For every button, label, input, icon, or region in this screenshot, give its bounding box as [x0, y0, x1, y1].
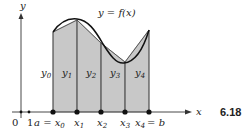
trapezoid-rule-figure: y x 0 1 y = f(x) y0 y1 y2 y3 y4 a = x0 x… [0, 0, 249, 139]
unit-dot [28, 111, 31, 114]
label-x4-equals-b: x4= b [135, 117, 165, 130]
x-axis-arrow-icon [185, 110, 192, 115]
origin-dot [20, 111, 23, 114]
trapezoid-1 [53, 20, 77, 112]
label-a-equals-x0: a = x0 [34, 117, 65, 130]
y-axis-arrow-icon [19, 13, 24, 19]
label-x3: x3 [120, 117, 131, 130]
point-x4 [146, 109, 151, 114]
unit-label: 1 [27, 117, 33, 128]
y-axis-label: y [19, 0, 26, 11]
label-y0: y0 [40, 67, 52, 80]
figure-number: 6.18 [220, 106, 241, 118]
point-x1 [74, 109, 79, 114]
point-x2 [98, 109, 103, 114]
partition-labels: a = x0 x1 x2 x3 x4= b [34, 117, 165, 130]
origin-label: 0 [12, 117, 18, 128]
label-x2: x2 [97, 117, 108, 130]
point-x3 [122, 109, 127, 114]
label-x1: x1 [74, 117, 84, 130]
point-x0 [50, 109, 55, 114]
x-axis-label: x [196, 106, 202, 117]
curve-label: y = f(x) [97, 7, 136, 18]
